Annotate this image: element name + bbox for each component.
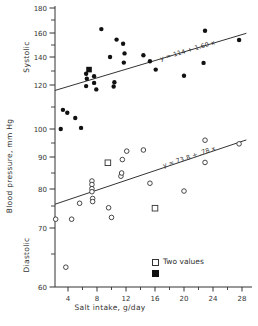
data-point-systolic xyxy=(122,51,126,55)
svg-text:80: 80 xyxy=(38,186,47,194)
x-axis-label: Salt intake, g/day xyxy=(74,303,145,312)
data-point-systolic xyxy=(108,55,112,59)
data-point-systolic xyxy=(94,87,98,91)
svg-text:28: 28 xyxy=(238,295,247,303)
legend-label: Two values xyxy=(163,257,204,266)
data-point-systolic xyxy=(201,61,205,65)
data-point-diastolic xyxy=(90,199,95,204)
svg-text:4: 4 xyxy=(66,295,71,303)
data-point-diastolic xyxy=(203,160,208,165)
data-point-systolic xyxy=(122,60,126,64)
data-point-systolic xyxy=(112,80,116,84)
legend-open-square-icon xyxy=(152,259,159,266)
svg-text:180: 180 xyxy=(34,5,47,13)
data-point-diastolic xyxy=(203,138,208,143)
data-point-systolic xyxy=(111,84,115,88)
data-point-diastolic xyxy=(119,171,124,176)
data-point-systolic xyxy=(65,111,69,115)
data-point-diastolic xyxy=(64,265,69,270)
plot-svg: 18016014012010090807060481216202428 xyxy=(0,0,258,326)
scatter-figure: 18016014012010090807060481216202428 Syst… xyxy=(0,0,258,326)
y-section-label-systolic: Systolic xyxy=(22,41,31,72)
data-point-diastolic xyxy=(148,181,153,186)
data-point-systolic xyxy=(148,59,152,63)
data-point-diastolic xyxy=(237,142,242,147)
data-point-systolic xyxy=(154,67,158,71)
svg-text:60: 60 xyxy=(38,284,47,292)
data-point-systolic xyxy=(114,37,118,41)
data-point-systolic xyxy=(92,74,96,78)
svg-text:70: 70 xyxy=(38,225,47,233)
data-point-systolic xyxy=(73,116,77,120)
data-point-systolic xyxy=(182,74,186,78)
data-point-diastolic xyxy=(124,149,129,154)
data-point-diastolic xyxy=(90,189,95,194)
data-point-diastolic xyxy=(77,201,82,206)
data-point-diastolic xyxy=(69,217,74,222)
svg-text:120: 120 xyxy=(34,82,47,90)
data-point-systolic xyxy=(85,77,89,81)
data-point-diastolic xyxy=(109,215,114,220)
data-point-diastolic xyxy=(53,217,58,222)
svg-text:20: 20 xyxy=(180,295,189,303)
data-point-diastolic xyxy=(182,189,187,194)
data-point-systolic xyxy=(61,108,65,112)
svg-text:160: 160 xyxy=(34,30,47,38)
data-point-systolic xyxy=(203,29,207,33)
data-point-diastolic xyxy=(141,148,146,153)
data-point-systolic xyxy=(92,81,96,85)
data-point-diastolic xyxy=(120,157,125,162)
data-point-diastolic-two-values xyxy=(152,205,158,211)
data-point-systolic xyxy=(84,84,88,88)
data-point-systolic xyxy=(99,27,103,31)
data-point-systolic xyxy=(59,127,63,131)
svg-text:16: 16 xyxy=(151,295,160,303)
y-section-label-diastolic: Diastolic xyxy=(22,238,31,273)
data-point-systolic xyxy=(121,42,125,46)
y-axis-label: Blood pressure, mm Hg xyxy=(5,119,14,213)
svg-text:24: 24 xyxy=(209,295,218,303)
legend-filled-square-icon xyxy=(152,270,159,277)
data-point-systolic xyxy=(237,38,241,42)
data-point-systolic-two-values xyxy=(86,67,92,73)
data-point-systolic xyxy=(141,53,145,57)
data-point-diastolic xyxy=(106,205,111,210)
svg-text:100: 100 xyxy=(34,126,47,134)
data-point-diastolic-two-values xyxy=(105,160,111,166)
svg-text:140: 140 xyxy=(34,54,47,62)
data-point-systolic xyxy=(79,126,83,130)
svg-text:90: 90 xyxy=(38,154,47,162)
